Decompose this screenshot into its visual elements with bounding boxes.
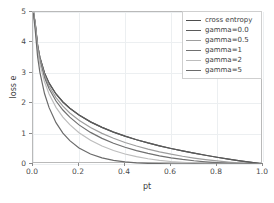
legend-label: gamma=0.5 [205, 35, 249, 45]
legend-line-icon [186, 40, 201, 41]
legend-item[interactable]: gamma=0.0 [186, 25, 257, 35]
y-tick-mark [29, 102, 32, 103]
x-tick-mark [170, 163, 171, 166]
x-tick-label: 0.8 [210, 167, 222, 176]
legend-line-icon [186, 50, 201, 51]
legend-item[interactable]: cross entropy [186, 15, 257, 25]
x-axis-label: pt [143, 182, 151, 191]
y-tick-mark [29, 41, 32, 42]
legend-line-icon [186, 70, 201, 71]
legend-item[interactable]: gamma=2 [186, 55, 257, 65]
legend-label: cross entropy [205, 15, 252, 25]
figure-canvas: 0.00.20.40.60.81.0 012345 pt loss e cros… [0, 0, 274, 203]
y-tick-mark [29, 72, 32, 73]
gridline-vertical [263, 12, 264, 162]
x-tick-label: 0.2 [72, 167, 84, 176]
x-tick-label: 0.6 [164, 167, 176, 176]
x-tick-mark [78, 163, 79, 166]
chart-legend[interactable]: cross entropygamma=0.0gamma=0.5gamma=1ga… [182, 11, 262, 79]
x-tick-label: 1.0 [256, 167, 268, 176]
legend-item[interactable]: gamma=1 [186, 45, 257, 55]
y-tick-mark [29, 11, 32, 12]
y-tick-label: 3 [21, 67, 26, 76]
y-tick-label: 0 [21, 159, 26, 168]
y-tick-mark [29, 163, 32, 164]
y-tick-label: 5 [21, 7, 26, 16]
y-tick-label: 2 [21, 98, 26, 107]
x-tick-label: 0.0 [26, 167, 38, 176]
x-tick-label: 0.4 [118, 167, 130, 176]
legend-label: gamma=0.0 [205, 25, 249, 35]
legend-line-icon [186, 30, 201, 31]
x-tick-mark [124, 163, 125, 166]
x-tick-mark [32, 163, 33, 166]
legend-line-icon [186, 20, 201, 21]
y-tick-label: 4 [21, 37, 26, 46]
y-tick-mark [29, 133, 32, 134]
x-tick-mark [262, 163, 263, 166]
legend-label: gamma=5 [205, 65, 242, 75]
legend-item[interactable]: gamma=0.5 [186, 35, 257, 45]
legend-item[interactable]: gamma=5 [186, 65, 257, 75]
y-axis-label: loss e [9, 76, 18, 99]
gridline-horizontal [33, 164, 261, 165]
y-tick-label: 1 [21, 128, 26, 137]
legend-label: gamma=1 [205, 45, 242, 55]
legend-label: gamma=2 [205, 55, 242, 65]
x-tick-mark [216, 163, 217, 166]
legend-line-icon [186, 60, 201, 61]
